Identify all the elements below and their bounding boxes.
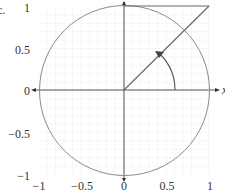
- x-tick: 1: [207, 179, 213, 192]
- x-axis-right-arrow-icon: [215, 88, 220, 92]
- x-tick: 0: [121, 179, 127, 192]
- y-tick-labels: 1 0.5 0 −0.5 −1: [8, 1, 30, 183]
- y-tick: −0.5: [8, 127, 30, 141]
- x-axis-label: x: [221, 83, 225, 97]
- figure-label: c.: [0, 3, 5, 17]
- x-tick: 0.5: [160, 179, 175, 192]
- y-tick: 0.5: [15, 43, 30, 57]
- x-tick-labels: −1 −0.5 0 0.5 1: [33, 179, 213, 192]
- y-tick: 1: [24, 1, 30, 15]
- unit-circle-figure: −1 −0.5 0 0.5 1 1 0.5 0 −0.5 −1 c. x: [0, 0, 225, 192]
- x-axis-left-arrow-icon: [31, 88, 36, 92]
- y-axis-up-arrow-icon: [122, 1, 126, 5]
- x-tick: −1: [33, 179, 46, 192]
- y-tick: 0: [24, 84, 30, 98]
- x-tick: −0.5: [71, 179, 93, 192]
- y-tick: −1: [17, 169, 30, 183]
